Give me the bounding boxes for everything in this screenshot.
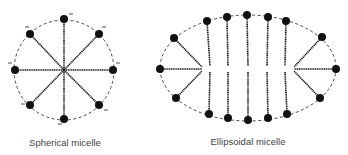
micelle-diagrams bbox=[0, 0, 348, 155]
spherical-caption: Spherical micelle bbox=[29, 137, 101, 148]
ellipsoidal-tails bbox=[160, 15, 336, 119]
ellipsoidal-micelle bbox=[156, 11, 340, 124]
ellipsoidal-caption: Ellipsoidal micelle bbox=[211, 136, 286, 147]
spherical-micelle bbox=[8, 14, 120, 124]
